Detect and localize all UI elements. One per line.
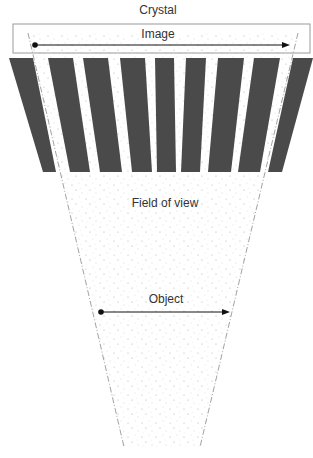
object-label: Object bbox=[149, 293, 184, 305]
crystal-label: Crystal bbox=[139, 4, 176, 16]
diagram-canvas bbox=[0, 0, 313, 458]
image-label: Image bbox=[141, 28, 174, 40]
field-of-view-label: Field of view bbox=[132, 197, 199, 209]
collimator-bar bbox=[155, 58, 176, 172]
